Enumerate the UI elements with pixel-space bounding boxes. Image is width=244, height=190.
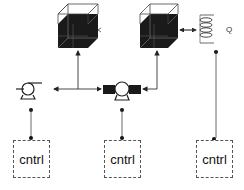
signal-line-left: [29, 108, 33, 140]
signal-line-right: [212, 50, 218, 141]
heater-q-label: Q: [226, 25, 232, 34]
pump-left-icon: [16, 83, 42, 99]
controller-left-label: cntrl: [19, 152, 44, 167]
tank-left-level-indicator: [98, 28, 101, 32]
heater-coil-icon: [200, 15, 214, 43]
tank-left: [58, 4, 101, 48]
controller-middle[interactable]: cntrl: [104, 140, 141, 178]
controller-right[interactable]: cntrl: [196, 140, 233, 178]
controller-middle-label: cntrl: [110, 152, 135, 167]
tank-right: [140, 4, 178, 48]
controller-right-label: cntrl: [202, 152, 227, 167]
signal-line-middle: [120, 108, 124, 140]
controller-left[interactable]: cntrl: [13, 140, 50, 178]
pump-middle-icon: [103, 82, 141, 100]
